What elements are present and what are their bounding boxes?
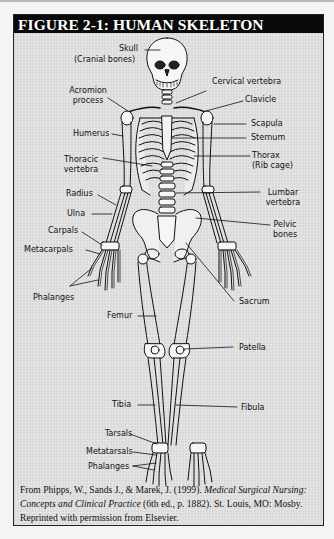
- label-thoracic-vertebra: Thoracic vertebra: [60, 155, 102, 174]
- label-fibula: Fibula: [241, 403, 265, 413]
- label-carpals: Carpals: [48, 226, 78, 236]
- left-foot-shape: [146, 443, 172, 486]
- label-phalanges-hand: Phalanges: [33, 293, 74, 303]
- label-humerus: Humerus: [73, 129, 109, 139]
- skeleton-illustration: [0, 0, 334, 539]
- label-cranial-bones: (Cranial bones): [74, 55, 135, 65]
- label-metatarsals: Metatarsals: [86, 447, 133, 457]
- label-tarsals: Tarsals: [105, 429, 132, 439]
- label-sacrum: Sacrum: [239, 297, 270, 307]
- label-thorax: Thorax (Rib cage): [252, 151, 293, 170]
- label-metacarpals: Metacarpals: [24, 245, 73, 255]
- label-skull: Skull: [96, 44, 188, 54]
- label-femur: Femur: [107, 311, 132, 321]
- label-acromion-process: Acromion process: [64, 86, 112, 105]
- right-hand-shape: [218, 242, 251, 290]
- spine-shape: [159, 162, 175, 213]
- label-scapula: Scapula: [251, 119, 283, 129]
- label-phalanges-foot: Phalanges: [88, 462, 129, 472]
- figure-caption: From Phipps, W., Sands J., & Marek, J. (…: [20, 483, 320, 525]
- leader-lines: [70, 50, 270, 470]
- label-sternum: Sternum: [251, 133, 285, 143]
- label-patella: Patella: [239, 343, 266, 353]
- label-lumbar-vertebra: Lumbar vertebra: [262, 188, 304, 207]
- label-pelvic-bones: Pelvic bones: [270, 220, 300, 239]
- left-hand-shape: [88, 242, 120, 290]
- label-clavicle: Clavicle: [245, 95, 276, 105]
- label-ulna: Ulna: [67, 209, 85, 219]
- label-cervical-vertebra: Cervical vertebra: [212, 77, 281, 87]
- label-tibia: Tibia: [112, 400, 131, 410]
- label-radius: Radius: [66, 189, 93, 199]
- cervical-shape: [162, 90, 172, 104]
- knees-shape: [144, 344, 189, 358]
- right-foot-shape: [188, 443, 212, 486]
